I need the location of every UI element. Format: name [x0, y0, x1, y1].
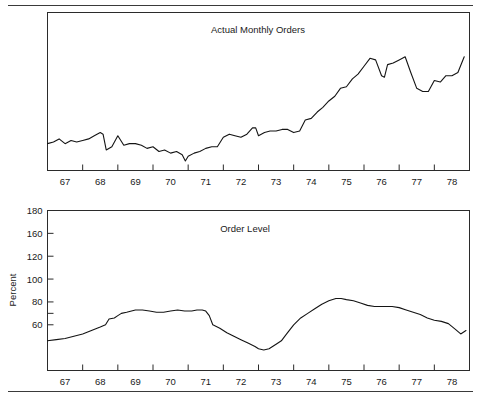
x-tick-label-top: 78: [447, 176, 458, 187]
top-horizontal-rule: [8, 5, 473, 6]
chart-title-bottom: Order Level: [220, 223, 270, 234]
x-tick-label-bottom: 69: [130, 376, 141, 387]
data-series-actual-monthly-orders: [48, 57, 465, 161]
chart-actual-monthly-orders: Actual Monthly Orders 676869707172737475…: [0, 8, 481, 190]
x-tick-label-top: 71: [200, 176, 211, 187]
x-tick-label-top: 75: [341, 176, 352, 187]
y-tick-label: 100: [27, 274, 43, 285]
x-tick-label-top: 73: [271, 176, 282, 187]
chart-order-level: Order Level Percent 1801601201008060 676…: [0, 200, 481, 390]
y-axis-labels: 1801601201008060: [27, 205, 43, 330]
figure-page: Actual Monthly Orders 676869707172737475…: [0, 0, 481, 397]
x-tick-label-top: 68: [95, 176, 106, 187]
x-tick-label-bottom: 78: [447, 376, 458, 387]
x-tick-label-top: 76: [376, 176, 387, 187]
x-tick-label-bottom: 74: [306, 376, 317, 387]
x-axis-ticks-top: [83, 165, 435, 171]
bottom-horizontal-rule: [8, 391, 473, 392]
x-tick-label-bottom: 76: [376, 376, 387, 387]
y-axis-ticks: [48, 211, 54, 325]
order-level-svg: Order Level Percent 1801601201008060 676…: [0, 200, 481, 390]
x-axis-labels-bottom: 676869707172737475767778: [60, 376, 457, 387]
x-tick-label-top: 70: [165, 176, 176, 187]
plot-frame-bottom: [48, 211, 470, 371]
x-tick-label-bottom: 77: [411, 376, 422, 387]
y-tick-label: 180: [27, 205, 43, 216]
y-tick-label: 160: [27, 228, 43, 239]
x-tick-label-top: 74: [306, 176, 317, 187]
y-tick-label: 120: [27, 251, 43, 262]
data-series-order-level: [48, 299, 466, 350]
x-tick-label-top: 72: [236, 176, 247, 187]
chart-title-top: Actual Monthly Orders: [211, 24, 305, 35]
x-tick-label-bottom: 73: [271, 376, 282, 387]
x-tick-label-bottom: 75: [341, 376, 352, 387]
x-tick-label-bottom: 67: [60, 376, 71, 387]
x-tick-label-bottom: 70: [165, 376, 176, 387]
x-tick-label-top: 69: [130, 176, 141, 187]
y-tick-label: 60: [32, 319, 43, 330]
x-tick-label-top: 77: [411, 176, 422, 187]
y-tick-label: 80: [32, 296, 43, 307]
x-tick-label-top: 67: [60, 176, 71, 187]
x-tick-label-bottom: 68: [95, 376, 106, 387]
x-tick-label-bottom: 72: [236, 376, 247, 387]
actual-monthly-orders-svg: Actual Monthly Orders 676869707172737475…: [0, 8, 481, 190]
x-axis-ticks-bottom: [83, 365, 435, 371]
x-axis-labels-top: 676869707172737475767778: [60, 176, 457, 187]
y-axis-title: Percent: [7, 273, 18, 306]
x-tick-label-bottom: 71: [200, 376, 211, 387]
